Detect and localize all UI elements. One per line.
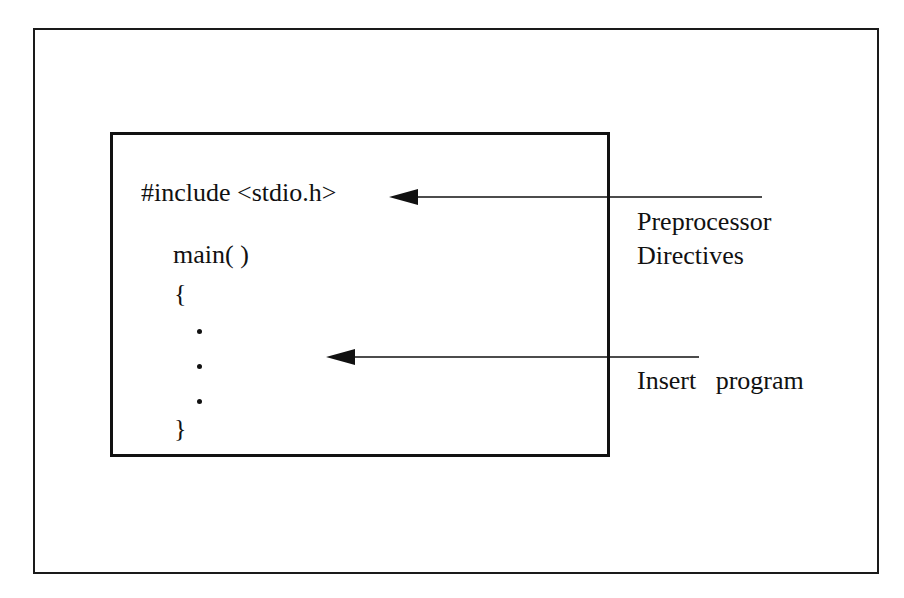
arrow-preprocessor-icon bbox=[389, 189, 762, 205]
arrow-insert-program-icon bbox=[326, 349, 699, 365]
arrows-layer bbox=[0, 0, 904, 598]
